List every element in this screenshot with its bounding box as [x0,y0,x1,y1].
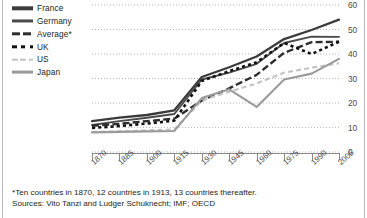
legend-item-uk[interactable]: UK [12,40,90,53]
legend-item-average[interactable]: Average* [12,28,90,41]
legend-item-us[interactable]: US [12,53,90,66]
legend-item-label: France [37,4,63,12]
series-line-uk [92,42,339,128]
legend-swatch-icon [12,55,33,65]
chart-figure: FranceGermanyAverage*UKUSJapan 010203040… [0,0,367,218]
footnote-text: *Ten countries in 1870, 12 countries in … [12,188,357,199]
legend-swatch-icon [12,29,33,39]
plot-canvas [92,0,339,153]
legend-swatch-icon [12,42,33,52]
series-line-japan [92,59,339,132]
plot-area [92,0,339,153]
y-tick-label: 60 [348,1,357,9]
legend-item-label: US [37,55,49,63]
y-tick-label: 40 [348,50,357,58]
figure-notes: *Ten countries in 1870, 12 countries in … [12,188,357,209]
legend-item-france[interactable]: France [12,2,90,15]
legend-swatch-icon [12,67,33,77]
legend-swatch-icon [12,16,33,26]
series-line-france [92,20,339,121]
y-axis-labels: 0102030405060 [339,0,365,153]
figure-left-rule [2,0,3,218]
series-line-germany [92,37,339,125]
chart-legend: FranceGermanyAverage*UKUSJapan [12,2,90,79]
legend-item-label: Japan [37,68,60,76]
legend-item-japan[interactable]: Japan [12,66,90,79]
y-tick-label: 50 [348,25,357,33]
y-tick-label: 20 [348,99,357,107]
y-tick-label: 30 [348,74,357,82]
legend-item-label: UK [37,43,49,51]
legend-item-label: Germany [37,17,72,25]
series-line-us [92,63,339,132]
legend-swatch-icon [12,3,33,13]
y-tick-label: 10 [348,123,357,131]
legend-item-label: Average* [37,30,72,38]
legend-item-germany[interactable]: Germany [12,15,90,28]
sources-text: Sources: Vito Tanzi and Ludger Schuknech… [12,199,357,210]
x-axis-labels: 1870188519001915193019451960197519902005 [92,161,339,183]
